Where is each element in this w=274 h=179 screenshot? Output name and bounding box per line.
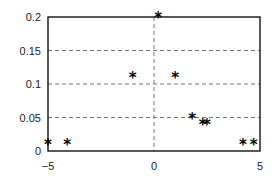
grid-lines (48, 17, 260, 151)
star-marker: * (239, 136, 247, 154)
x-tick-label: 5 (257, 160, 263, 172)
star-marker: * (171, 69, 179, 87)
y-tick-label: 0.1 (26, 78, 41, 90)
x-axis-ticks: −505 (42, 160, 263, 172)
y-tick-label: 0.05 (20, 112, 41, 124)
x-tick-label: −5 (42, 160, 55, 172)
x-tick-label: 0 (151, 160, 157, 172)
star-marker: * (44, 136, 52, 154)
y-axis-ticks: 00.050.10.150.2 (20, 11, 41, 157)
star-marker: * (188, 110, 196, 128)
data-points: ********** (44, 9, 258, 154)
y-tick-label: 0 (35, 145, 41, 157)
y-tick-label: 0.15 (20, 45, 41, 57)
star-marker: * (129, 69, 137, 87)
star-marker: * (203, 116, 211, 134)
star-marker: * (63, 136, 71, 154)
star-marker: * (154, 9, 162, 27)
y-tick-label: 0.2 (26, 11, 41, 23)
star-marker: * (250, 136, 258, 154)
scatter-chart: 00.050.10.150.2 −505 ********** (0, 0, 274, 179)
